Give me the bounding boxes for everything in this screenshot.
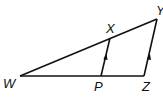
label-y: Y: [156, 3, 163, 18]
segment-zy: [144, 19, 157, 76]
label-w: W: [3, 76, 17, 91]
triangle-figure: W X Y P Z: [0, 0, 163, 97]
segment-wy: [20, 19, 157, 76]
label-p: P: [94, 79, 103, 94]
label-z: Z: [141, 79, 151, 94]
label-x: X: [105, 21, 116, 36]
geometry-diagram: W X Y P Z: [0, 0, 163, 97]
